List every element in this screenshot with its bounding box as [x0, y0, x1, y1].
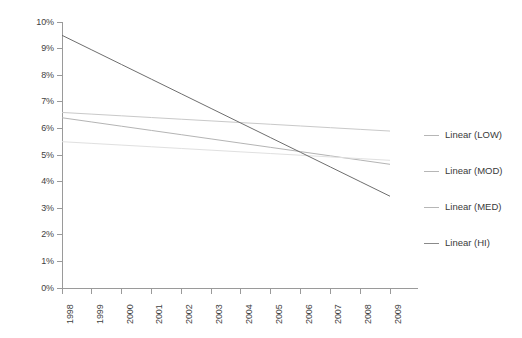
x-tick-label: 2004	[245, 304, 254, 324]
x-tick-label: 2006	[305, 304, 314, 324]
legend-label: Linear (HI)	[445, 238, 490, 248]
legend-item[interactable]: Linear (MOD)	[424, 164, 520, 178]
x-tick-label: 2001	[155, 304, 164, 324]
x-tick-label: 1999	[96, 304, 105, 324]
x-tick-label: 2000	[126, 304, 135, 324]
x-tick-label: 2005	[275, 304, 284, 324]
x-tick-label: 2007	[334, 304, 343, 324]
legend-line-swatch-icon	[424, 243, 439, 244]
chart-legend: Linear (LOW)Linear (MOD)Linear (MED)Line…	[424, 128, 520, 272]
legend-line-swatch-icon	[424, 135, 439, 136]
legend-label: Linear (LOW)	[445, 130, 502, 140]
legend-label: Linear (MED)	[445, 202, 502, 212]
x-tick-label: 2002	[185, 304, 194, 324]
legend-label: Linear (MOD)	[445, 166, 503, 176]
x-tick-label: 2009	[394, 304, 403, 324]
legend-line-swatch-icon	[424, 171, 439, 172]
x-tick-label: 2003	[215, 304, 224, 324]
legend-item[interactable]: Linear (MED)	[424, 200, 520, 214]
line-chart: 10%9%8%7%6%5%4%3%2%1%0% 1998199920002001…	[0, 0, 522, 338]
x-tick-label: 2008	[364, 304, 373, 324]
legend-item[interactable]: Linear (HI)	[424, 236, 520, 250]
legend-line-swatch-icon	[424, 207, 439, 208]
legend-item[interactable]: Linear (LOW)	[424, 128, 520, 142]
x-tick-label: 1998	[66, 304, 75, 324]
